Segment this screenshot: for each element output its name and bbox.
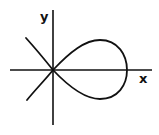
x-axis-label: x — [139, 71, 148, 86]
y-axis-label: y — [40, 9, 49, 24]
upper-left-branch — [26, 38, 53, 70]
curve-diagram: y x — [0, 0, 159, 135]
lower-left-branch — [27, 70, 53, 100]
